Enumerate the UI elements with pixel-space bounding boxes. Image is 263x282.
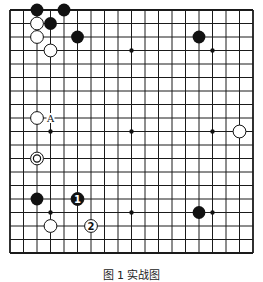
black-stone xyxy=(193,31,206,44)
black-stone xyxy=(44,17,57,30)
black-stone xyxy=(31,193,44,206)
black-stone xyxy=(193,206,206,219)
point-label-A: A xyxy=(46,113,55,124)
diagram-caption: 图 1 实战图 xyxy=(0,266,263,282)
white-stone xyxy=(44,220,57,233)
black-stone xyxy=(71,31,84,44)
hoshi-point xyxy=(210,129,214,133)
hoshi-point xyxy=(210,48,214,52)
stone-number: 1 xyxy=(74,194,81,205)
white-stone xyxy=(31,112,44,125)
white-stone xyxy=(31,17,44,30)
white-stone-marked xyxy=(31,152,44,165)
hoshi-point xyxy=(129,210,133,214)
black-stone xyxy=(31,4,44,17)
stone-number: 2 xyxy=(88,221,95,232)
hoshi-point xyxy=(210,210,214,214)
white-stone xyxy=(44,44,57,57)
hoshi-point xyxy=(48,210,52,214)
black-stone xyxy=(58,4,71,17)
hoshi-point xyxy=(48,129,52,133)
white-stone xyxy=(31,31,44,44)
hoshi-point xyxy=(129,129,133,133)
white-stone xyxy=(233,125,246,138)
go-board: 12A xyxy=(0,0,263,262)
hoshi-point xyxy=(129,48,133,52)
